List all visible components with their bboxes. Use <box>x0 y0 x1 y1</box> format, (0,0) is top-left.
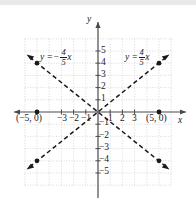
point-label-5-0: (5, 0) <box>146 114 167 124</box>
point-5-4 <box>157 61 162 66</box>
equation-right-numerator: 4 <box>139 48 145 57</box>
equation-label-right: y = 4 5 x <box>125 48 149 67</box>
equation-left-lead: y = <box>40 53 53 63</box>
x-tick-3: 3 <box>132 114 137 124</box>
equation-left-fraction: 4 5 <box>60 48 66 67</box>
equation-left-denominator: 5 <box>60 58 66 67</box>
y-axis-label: y <box>87 15 91 25</box>
point-label-neg5-0: (−5, 0) <box>16 114 42 124</box>
y-tick-3: 3 <box>101 70 106 80</box>
y-tick-neg2: −2 <box>99 131 109 141</box>
y-tick-2: 2 <box>101 82 106 92</box>
equation-left-sign: − <box>53 53 59 63</box>
y-tick-neg4: −4 <box>99 155 109 165</box>
graph-figure: y x 5 4 3 2 1 −1 −2 −3 −4 −5 −3 −2 −1 1 … <box>0 0 196 204</box>
equation-label-left: y = − 4 5 x <box>40 48 71 67</box>
equation-left-numerator: 4 <box>60 48 66 57</box>
x-tick-neg3: −3 <box>57 114 67 124</box>
equation-right-denominator: 5 <box>139 58 145 67</box>
coordinate-plane <box>0 0 196 204</box>
equation-right-fraction: 4 5 <box>139 48 145 67</box>
y-tick-1: 1 <box>101 94 106 104</box>
equation-right-lead: y = <box>125 53 138 63</box>
x-tick-1: 1 <box>108 114 113 124</box>
point-5-neg4 <box>157 158 162 163</box>
equation-right-variable: x <box>145 53 149 63</box>
x-axis-label: x <box>178 116 182 126</box>
y-tick-neg5: −5 <box>99 167 109 177</box>
x-tick-2: 2 <box>120 114 125 124</box>
point-neg5-4 <box>35 61 40 66</box>
y-tick-neg3: −3 <box>99 143 109 153</box>
y-tick-5: 5 <box>101 46 106 56</box>
x-tick-neg2: −2 <box>69 114 79 124</box>
y-tick-4: 4 <box>101 58 106 68</box>
equation-left-variable: x <box>67 53 71 63</box>
point-neg5-neg4 <box>35 158 40 163</box>
x-tick-neg1: −1 <box>81 114 91 124</box>
